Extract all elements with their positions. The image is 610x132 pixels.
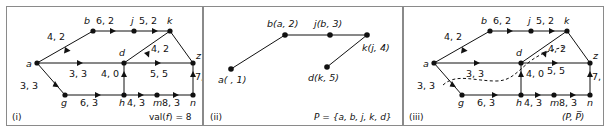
node3-label-z: z bbox=[592, 50, 599, 61]
node-b bbox=[90, 28, 95, 33]
node3-label-h: h bbox=[516, 97, 522, 108]
node2-label-d: d(k, 5) bbox=[308, 72, 339, 83]
node-j bbox=[131, 28, 136, 33]
node-label-z: z bbox=[195, 50, 202, 61]
node3-j bbox=[528, 28, 533, 33]
edge-label-a-d: 3, 3 bbox=[69, 68, 87, 79]
node3-label-g: g bbox=[458, 97, 464, 108]
arrowhead3-h-d-up bbox=[518, 71, 524, 77]
panel-ii-graph: a( , 1) b(a, 2) j(b, 3) k(j, 4) d(k, 5) … bbox=[204, 7, 402, 125]
panel-iii-canvas: a b j k d z g h m n 4, 2 6, 2 5, 2 3, 3 … bbox=[404, 7, 603, 125]
node3-label-a: a bbox=[423, 58, 429, 69]
edge-label-g-h: 6, 3 bbox=[80, 97, 98, 108]
node-d bbox=[121, 60, 126, 65]
panel-iii-corner-label: (iii) bbox=[409, 112, 424, 122]
node-label-m: m bbox=[153, 97, 162, 108]
arrowhead-h-d-up bbox=[121, 71, 127, 77]
arrowhead-j-k bbox=[152, 28, 158, 34]
edge3-label-a-b: 4, 2 bbox=[444, 31, 462, 42]
node-label-n: n bbox=[190, 97, 196, 108]
arrowhead3-b-j bbox=[507, 28, 513, 34]
edge-label-a-b: 4, 2 bbox=[47, 31, 65, 42]
edge3-label-j-k: 5, 2 bbox=[536, 15, 554, 26]
node2-d bbox=[324, 64, 330, 70]
node2-k bbox=[364, 32, 370, 38]
figure-root: a b j k d z g h m n 4, 2 6, 2 5, 2 3, 3 … bbox=[0, 0, 610, 132]
node3-label-j: j bbox=[526, 15, 531, 26]
edge-label-a-g: 3, 3 bbox=[20, 80, 38, 91]
edge2-k-d bbox=[327, 35, 367, 67]
node3-a bbox=[431, 60, 436, 65]
node2-label-b: b(a, 2) bbox=[267, 18, 298, 29]
edge-label-h-m: 4, 3 bbox=[127, 97, 145, 108]
edge3-label-n-z: 7, 3 bbox=[592, 71, 603, 82]
panel-ii-set-label: P = {a, b, j, k, d} bbox=[314, 112, 392, 122]
panel-ii: a( , 1) b(a, 2) j(b, 3) k(j, 4) d(k, 5) … bbox=[203, 6, 403, 126]
node-label-k: k bbox=[167, 15, 173, 26]
panel-i: a b j k d z g h m n 4, 2 6, 2 5, 2 3, 3 … bbox=[6, 6, 203, 126]
arrowhead-a-d bbox=[77, 60, 83, 66]
edge3-label-d-k: 4, 2 bbox=[548, 43, 566, 54]
node2-label-k: k(j, 4) bbox=[362, 42, 390, 53]
arrowhead3-a-b bbox=[461, 47, 468, 54]
edge3-k-z bbox=[567, 31, 590, 63]
edge3-label-m-n: 8, 3 bbox=[559, 97, 577, 108]
node3-label-k: k bbox=[564, 15, 570, 26]
edge-label-m-n: 8, 3 bbox=[162, 97, 180, 108]
edge2-a-b bbox=[231, 35, 285, 69]
edge-k-z bbox=[170, 31, 193, 63]
node-label-b: b bbox=[84, 15, 90, 26]
edge-label-j-k: 5, 2 bbox=[139, 15, 157, 26]
node-label-h: h bbox=[119, 97, 125, 108]
arrowhead-d-k bbox=[144, 51, 150, 58]
node-label-a: a bbox=[26, 58, 32, 69]
edge-a-g bbox=[37, 63, 65, 95]
panel-ii-canvas: a( , 1) b(a, 2) j(b, 3) k(j, 4) d(k, 5) … bbox=[204, 7, 402, 125]
edge3-label-a-g: 3, 3 bbox=[417, 80, 435, 91]
edge3-label-g-h: 6, 3 bbox=[477, 97, 495, 108]
edge3-label-b-j: 6, 2 bbox=[493, 15, 511, 26]
panel-i-canvas: a b j k d z g h m n 4, 2 6, 2 5, 2 3, 3 … bbox=[7, 7, 202, 125]
node2-label-a: a( , 1) bbox=[218, 74, 246, 85]
arrowhead-d-z bbox=[155, 60, 161, 66]
edge3-label-a-d: 3, 3 bbox=[466, 68, 484, 79]
node3-k bbox=[564, 28, 569, 33]
node3-label-d: d bbox=[516, 47, 523, 58]
panel-i-corner-label: (i) bbox=[12, 112, 22, 122]
panel-iii-cut-label: (P, P̅) bbox=[562, 111, 584, 122]
edge3-label-h-m: 4, 3 bbox=[524, 97, 542, 108]
node3-d bbox=[518, 60, 523, 65]
node3-b bbox=[487, 28, 492, 33]
node-a bbox=[34, 60, 39, 65]
node-z bbox=[190, 60, 195, 65]
edge3-label-d-z: 5, 5 bbox=[547, 65, 565, 76]
edge-label-b-j: 6, 2 bbox=[96, 15, 114, 26]
node3-label-n: n bbox=[587, 97, 593, 108]
edge-label-d-k: 4, 2 bbox=[151, 43, 169, 54]
node-label-g: g bbox=[61, 97, 67, 108]
node-k bbox=[167, 28, 172, 33]
arrowhead3-a-d bbox=[474, 60, 480, 66]
panel-i-graph: a b j k d z g h m n 4, 2 6, 2 5, 2 3, 3 … bbox=[7, 7, 202, 125]
node2-j bbox=[327, 32, 333, 38]
node3-z bbox=[587, 60, 592, 65]
node2-label-j: j(b, 3) bbox=[312, 18, 342, 29]
edge-label-n-z: 7, 3 bbox=[195, 71, 202, 82]
edge3-label-h-d: 4, 0 bbox=[526, 68, 544, 79]
arrowhead3-j-k bbox=[549, 28, 555, 34]
edge-label-h-d: 4, 0 bbox=[101, 68, 119, 79]
node2-b bbox=[282, 32, 288, 38]
panel-i-value-label: val(f) = 8 bbox=[149, 112, 192, 122]
panel-iii: a b j k d z g h m n 4, 2 6, 2 5, 2 3, 3 … bbox=[403, 6, 604, 126]
node3-label-b: b bbox=[481, 15, 487, 26]
node3-label-m: m bbox=[550, 97, 559, 108]
arrowhead-b-j bbox=[110, 28, 116, 34]
panel-iii-graph: a b j k d z g h m n 4, 2 6, 2 5, 2 3, 3 … bbox=[404, 7, 603, 125]
node-label-d: d bbox=[119, 47, 126, 58]
edge-label-d-z: 5, 5 bbox=[150, 68, 168, 79]
arrowhead-a-b bbox=[64, 47, 71, 54]
node-label-j: j bbox=[129, 15, 134, 26]
panel-ii-corner-label: (ii) bbox=[210, 112, 222, 122]
node2-a bbox=[228, 66, 234, 72]
